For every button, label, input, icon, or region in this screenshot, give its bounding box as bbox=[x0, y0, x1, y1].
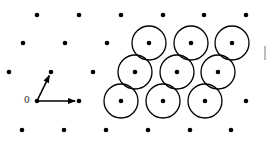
lattice-point bbox=[49, 70, 54, 75]
lattice-point bbox=[119, 99, 124, 104]
lattice-point bbox=[244, 13, 249, 18]
lattice-point bbox=[77, 99, 82, 104]
lattice-point bbox=[161, 99, 166, 104]
origin-label: 0 bbox=[24, 95, 30, 105]
lattice-point bbox=[77, 13, 82, 18]
lattice-point bbox=[147, 41, 152, 46]
lattice-point bbox=[203, 99, 208, 104]
lattice-point bbox=[175, 70, 180, 75]
lattice-point bbox=[119, 13, 124, 18]
basis-vectors bbox=[37, 76, 75, 101]
lattice-point bbox=[21, 41, 26, 46]
lattice-point bbox=[161, 13, 166, 18]
lattice-point bbox=[244, 99, 249, 104]
lattice-point bbox=[230, 41, 235, 46]
lattice-point bbox=[189, 41, 194, 46]
lattice-point bbox=[62, 128, 67, 133]
lattice-point bbox=[216, 70, 221, 75]
lattice-point bbox=[35, 13, 40, 18]
lattice-point bbox=[91, 70, 96, 75]
lattice-point bbox=[133, 70, 138, 75]
lattice-diagram bbox=[0, 0, 267, 141]
lattice-point bbox=[7, 70, 12, 75]
lattice-point bbox=[188, 128, 193, 133]
lattice-point bbox=[229, 128, 234, 133]
lattice-point bbox=[146, 128, 151, 133]
side-marker bbox=[264, 46, 266, 60]
lattice-points bbox=[7, 13, 249, 133]
basis-vector-arrow bbox=[37, 76, 49, 101]
lattice-point bbox=[63, 41, 68, 46]
lattice-point bbox=[105, 41, 110, 46]
lattice-point bbox=[202, 13, 207, 18]
lattice-point bbox=[20, 128, 25, 133]
lattice-point bbox=[104, 128, 109, 133]
